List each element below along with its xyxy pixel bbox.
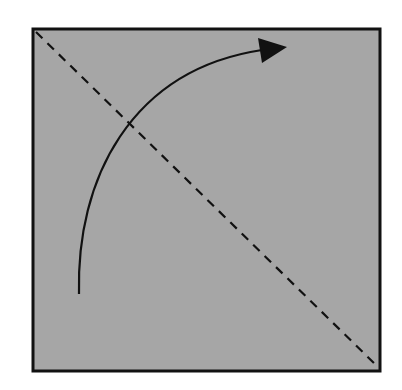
- diagram-canvas: [0, 0, 402, 390]
